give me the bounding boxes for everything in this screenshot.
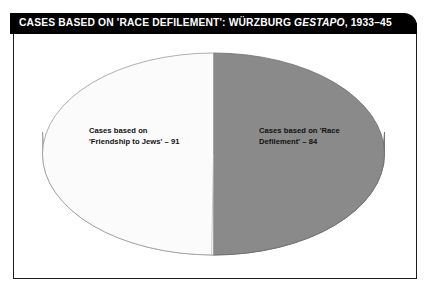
title-suffix: , 1933–45	[345, 17, 392, 28]
chart-title-bar: CASES BASED ON 'RACE DEFILEMENT': WÜRZBU…	[10, 13, 417, 34]
title-italic-gestapo: GESTAPO	[294, 17, 345, 28]
title-prefix: CASES BASED ON 'RACE DEFILEMENT': WÜRZBU…	[19, 17, 294, 28]
chart-frame	[13, 23, 417, 279]
pie-label-race-defilement: Cases based on 'Race Defilement' – 84	[259, 126, 340, 147]
page-title: CASES BASED ON 'RACE DEFILEMENT': WÜRZBU…	[10, 18, 392, 28]
figure-container: CASES BASED ON 'RACE DEFILEMENT': WÜRZBU…	[0, 0, 430, 300]
pie-label-friendship: Cases based on 'Friendship to Jews' – 91	[89, 126, 180, 147]
